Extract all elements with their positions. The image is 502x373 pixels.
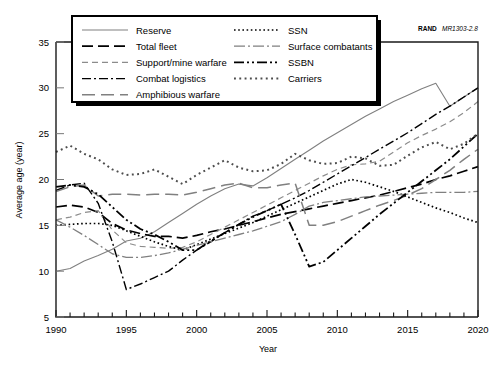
legend-label: SSN: [288, 25, 308, 36]
y-axis-tick-label: 25: [38, 128, 49, 139]
legend-label: Total fleet: [136, 41, 177, 52]
y-axis-tick-label: 10: [38, 266, 49, 277]
legend-label: Amphibious warfare: [136, 89, 220, 100]
x-axis-tick-label: 2000: [186, 324, 207, 335]
source-brand: RAND: [418, 25, 437, 32]
x-axis-tick-label: 2010: [327, 324, 348, 335]
y-axis-tick-label: 20: [38, 174, 49, 185]
x-axis-tick-label: 1995: [116, 324, 137, 335]
x-axis-tick-label: 2015: [397, 324, 418, 335]
y-axis-tick-label: 35: [38, 37, 49, 48]
legend-label: Combat logistics: [136, 73, 206, 84]
legend-label: SSBN: [288, 57, 314, 68]
y-axis-tick-label: 15: [38, 220, 49, 231]
chart-figure: 1990199520002005201020152020510152025303…: [0, 0, 502, 373]
legend: ReserveTotal fleetSupport/mine warfareCo…: [72, 16, 381, 106]
legend-label: Support/mine warfare: [136, 57, 227, 68]
x-axis-tick-label: 2005: [256, 324, 277, 335]
y-axis-tick-label: 5: [44, 312, 49, 323]
source-number: MR1303-2.8: [442, 25, 478, 32]
y-axis-title: Average age (year): [14, 142, 24, 219]
x-axis-tick-label: 1990: [45, 324, 66, 335]
legend-label: Surface combatants: [288, 41, 373, 52]
y-axis-tick-label: 30: [38, 82, 49, 93]
legend-label: Reserve: [136, 25, 171, 36]
legend-label: Carriers: [288, 73, 322, 84]
x-axis-title: Year: [259, 344, 277, 354]
x-axis-tick-label: 2020: [467, 324, 488, 335]
line-chart: 1990199520002005201020152020510152025303…: [0, 0, 502, 373]
